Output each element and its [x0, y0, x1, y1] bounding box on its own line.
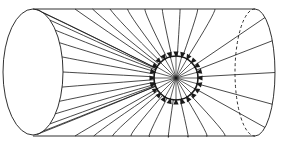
field-line-right [197, 84, 272, 104]
inward-arrow-icon [155, 57, 161, 63]
field-line-top [187, 9, 215, 59]
left-end-ellipse [3, 9, 63, 135]
field-line-bottom [186, 98, 207, 137]
inward-arrow-icon [191, 57, 197, 63]
field-line-left [50, 86, 155, 124]
field-line-right [198, 73, 275, 77]
field-line-right [197, 41, 273, 70]
sink-circle [150, 52, 203, 105]
field-line-bottom [190, 95, 225, 136]
back-dashed-arc [235, 9, 255, 136]
field-line-left [55, 30, 155, 70]
field-line-top [162, 9, 171, 56]
field-line-right [195, 89, 265, 128]
field-line-bottom [149, 98, 167, 136]
field-line-left [62, 80, 154, 87]
field-line-bottom [94, 91, 158, 136]
field-line-top [183, 9, 198, 57]
field-line-left [62, 57, 154, 74]
diagram-canvas [0, 0, 285, 145]
cylinder-field-diagram [0, 0, 285, 145]
field-line-top [177, 9, 180, 56]
field-line-left [63, 72, 154, 77]
field-line-top [110, 9, 161, 62]
field-line-bottom [180, 100, 188, 138]
field-line-left [60, 43, 155, 72]
field-line-bottom [168, 100, 173, 138]
field-line-right [194, 18, 265, 66]
field-line-bottom [113, 93, 160, 136]
